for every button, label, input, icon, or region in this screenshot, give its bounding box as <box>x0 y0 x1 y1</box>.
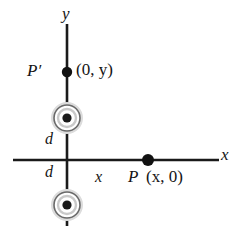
wire-lower-current-out-of-page-icon <box>53 191 82 220</box>
point-p-prime-coordinates: (0, y) <box>76 61 113 78</box>
y-axis-label: y <box>62 5 70 22</box>
point-p-prime-marker <box>62 67 72 77</box>
distance-label-x: x <box>95 169 102 185</box>
point-p-coordinates: (x, 0) <box>146 168 183 185</box>
wire-upper-current-out-of-page-icon <box>53 104 82 133</box>
distance-label-lower-d: d <box>45 164 53 180</box>
diagram-canvas <box>0 0 237 230</box>
point-p-marker <box>142 154 154 166</box>
physics-diagram: y x P′ (0, y) d d x P (x, 0) <box>0 0 237 230</box>
x-axis-label: x <box>221 146 229 163</box>
point-p-prime-label: P′ <box>27 62 41 79</box>
distance-label-upper-d: d <box>45 131 53 147</box>
point-p-label: P <box>128 168 138 185</box>
